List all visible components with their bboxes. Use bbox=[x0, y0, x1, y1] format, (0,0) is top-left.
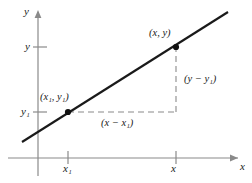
y-axis-label: y bbox=[24, 6, 29, 17]
slope-diagram: y x y y₁ x₁ x (x, y) (x₁, y₁) (y − y₁) (… bbox=[0, 0, 252, 183]
upper-point-marker bbox=[173, 44, 179, 50]
y-tick-label-y: y bbox=[25, 41, 30, 52]
x-tick-label-x1: x₁ bbox=[63, 163, 72, 174]
y-axis-arrowhead bbox=[35, 10, 42, 18]
x-tick-label-x: x bbox=[171, 163, 176, 174]
upper-point-label: (x, y) bbox=[149, 28, 171, 39]
lower-point-label: (x₁, y₁) bbox=[40, 92, 69, 103]
x-axis-label: x bbox=[240, 161, 245, 172]
lower-point-marker bbox=[65, 109, 71, 115]
horizontal-run-label: (x − x₁) bbox=[101, 118, 133, 129]
diagram-canvas bbox=[0, 0, 252, 183]
y-tick-label-y1: y₁ bbox=[21, 106, 30, 117]
vertical-rise-label: (y − y₁) bbox=[184, 74, 216, 85]
x-axis-arrowhead bbox=[230, 155, 238, 162]
